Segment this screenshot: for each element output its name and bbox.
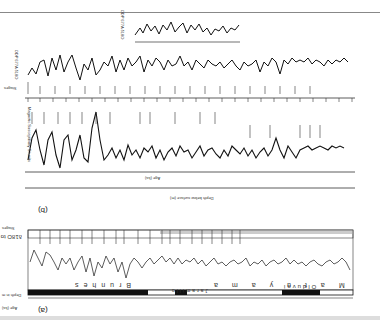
- panel-a-y-axis-label: δ18O to PDB: [0, 234, 22, 240]
- chron-brunhes: Brunhes: [70, 282, 131, 289]
- panel-a-age-label: Age (ka): [2, 306, 17, 311]
- chron-jaramillo: Jaramillo: [170, 288, 208, 294]
- figure-plots: [0, 0, 380, 320]
- panel-b-top-series-label: ODP 677A δ18O: [120, 10, 125, 40]
- figure-bottom-rule: [0, 316, 380, 320]
- panel-a-label: (a): [38, 306, 48, 315]
- panel-b-middle-series-label: ODP 677A δ18O: [14, 50, 19, 80]
- panel-b-age-axis-label: Age (ka): [145, 176, 160, 181]
- panel-a-depth-label: Depth in m: [2, 293, 21, 298]
- panel-a-stages-label: Stages: [2, 226, 14, 231]
- chron-olduvai: Olduvai: [282, 284, 316, 290]
- panel-b-label: (b): [38, 206, 48, 215]
- panel-b-stages-label: Stages: [4, 86, 16, 91]
- chron-matuyama: Matuyama: [200, 282, 345, 289]
- panel-b-susceptibility-label: Magnetic Susceptibility SI units: [27, 107, 32, 162]
- panel-b-depth-axis-label: Depth below surface (m): [170, 196, 214, 201]
